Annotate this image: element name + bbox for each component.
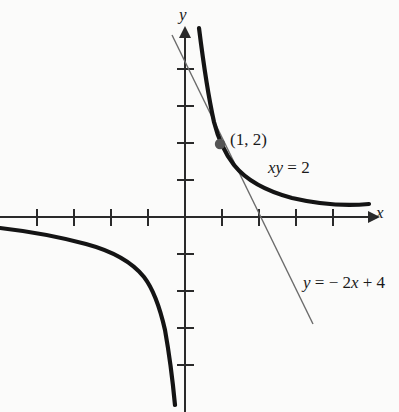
line-equation-constant: + 4	[359, 273, 386, 292]
plot-canvas	[0, 0, 399, 412]
line-equation-middle: = − 2	[311, 273, 351, 292]
line-equation-y: y	[303, 273, 311, 292]
y-axis-label: y	[179, 6, 187, 23]
line-equation-x: x	[351, 273, 359, 292]
hyperbola-branch-lower-left	[0, 228, 175, 405]
x-axis-label: x	[376, 204, 384, 221]
hyperbola-equation-label: xy = 2	[268, 159, 310, 176]
point-1-2-marker	[215, 139, 225, 149]
hyperbola-branch-upper-right	[199, 28, 369, 205]
hyperbola-equation-variables: xy	[268, 158, 283, 177]
line-equation-label: y = − 2x + 4	[303, 274, 385, 291]
point-coordinate-label: (1, 2)	[230, 131, 267, 148]
hyperbola-equation-value: = 2	[283, 158, 310, 177]
y-axis-arrowhead	[179, 26, 191, 38]
graph-figure: x y (1, 2) xy = 2 y = − 2x + 4	[0, 0, 399, 412]
